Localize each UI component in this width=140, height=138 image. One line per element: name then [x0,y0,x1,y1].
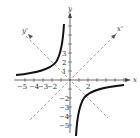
x-tick-label: 2 [86,83,90,91]
y-prime-arrow-icon [28,34,33,39]
x-axis-label: x [133,76,137,84]
chart-canvas: x y x' y' −5 −4 −3 −2 2 3 2 1 −2 −3 −4 −… [0,0,140,138]
x-tick-label: −2 [47,83,57,91]
y-tick-label: 2 [62,59,66,67]
x-tick-label: −5 [17,83,27,91]
y-tick-label: 1 [62,68,66,76]
y-tick-label: 3 [62,50,66,58]
x-prime-axis [30,32,118,120]
y-prime-label: y' [21,27,28,35]
y-axis-label: y [67,5,73,13]
y-tick-label: −2 [59,95,69,103]
y-tick-label: −4 [59,113,70,121]
x-prime-label: x' [117,25,123,33]
x-axis-arrow-icon [125,78,131,82]
hyperbola-branch-lower-right [76,85,124,136]
y-tick-label: −5 [59,122,69,130]
y-tick-label: −3 [59,104,69,112]
